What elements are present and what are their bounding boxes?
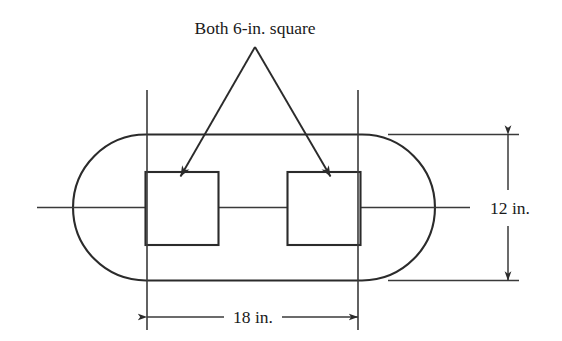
leader-line-right — [255, 47, 331, 177]
width-dimension-label: 18 in. — [233, 307, 273, 327]
square-holes-group — [146, 172, 361, 245]
height-dimension-label: 12 in. — [490, 198, 530, 218]
leader-annotation-group — [181, 47, 331, 177]
note-label: Both 6-in. square — [194, 18, 315, 38]
right-square-hole — [288, 172, 361, 245]
left-square-hole — [146, 172, 219, 245]
leader-line-left — [181, 47, 256, 177]
engineering-drawing-figure: Both 6-in. square 18 in. 12 in. — [0, 0, 562, 341]
figure-canvas: Both 6-in. square 18 in. 12 in. — [0, 0, 562, 341]
